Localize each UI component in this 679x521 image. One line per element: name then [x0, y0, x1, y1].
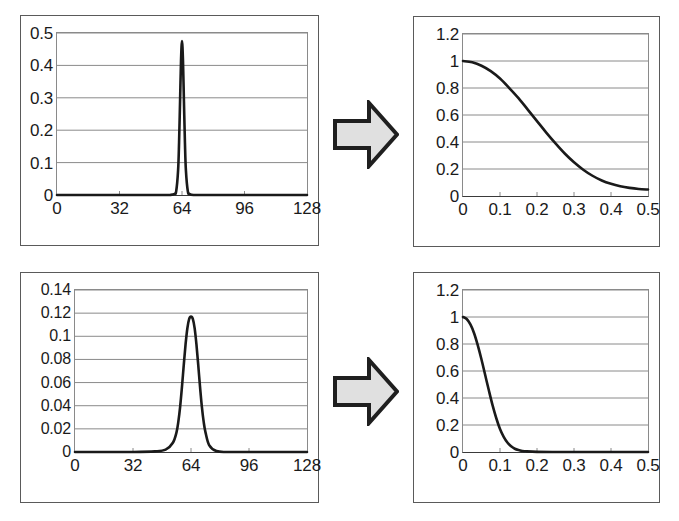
y-axis-tick-label: 0.2 — [30, 122, 53, 139]
arrow-top — [333, 100, 399, 169]
y-axis-tick-label: 1.2 — [436, 26, 459, 43]
plot-area-top-right: 00.20.40.60.811.200.10.20.30.40.5 — [462, 33, 649, 197]
y-axis-tick-label: 0.08 — [41, 351, 71, 367]
y-axis-tick-label: 0.02 — [41, 421, 71, 437]
y-axis-tick-label: 1 — [450, 53, 459, 70]
data-series-line — [57, 41, 307, 195]
right-arrow-icon — [333, 357, 399, 426]
y-axis-tick-label: 0.2 — [436, 161, 459, 178]
chart-panel-top-left: 00.10.20.30.40.50326496128 — [20, 15, 319, 246]
plot-area-bottom-left: 00.020.040.060.080.10.120.140326496128 — [74, 289, 308, 453]
y-axis-tick-label: 0.8 — [436, 336, 459, 353]
x-axis-tick-label: 32 — [110, 200, 129, 217]
plot-curve-top-right — [463, 34, 648, 196]
y-axis-tick-label: 0.04 — [41, 398, 71, 414]
figure-root: 00.10.20.30.40.50326496128 00.20.40.60.8… — [0, 0, 679, 521]
x-axis-tick-label: 64 — [182, 457, 201, 474]
data-series-line — [463, 61, 648, 190]
x-axis-tick-label: 0.4 — [599, 201, 622, 218]
y-axis-tick-label: 0.4 — [436, 390, 459, 407]
chart-panel-top-right: 00.20.40.60.811.200.10.20.30.40.5 — [413, 16, 660, 247]
y-axis-tick-label: 1 — [450, 309, 459, 326]
x-axis-tick-label: 0.3 — [562, 201, 585, 218]
x-axis-tick-label: 96 — [240, 457, 259, 474]
x-axis-tick-label: 64 — [173, 200, 192, 217]
y-axis-tick-label: 0.4 — [30, 57, 53, 74]
x-axis-tick-label: 0.2 — [525, 457, 548, 474]
x-axis-tick-label: 0.3 — [562, 457, 585, 474]
x-axis-tick-label: 0 — [70, 457, 79, 474]
x-axis-tick-label: 0.4 — [599, 457, 622, 474]
plot-curve-top-left — [57, 33, 307, 195]
chart-panel-bottom-right: 00.20.40.60.811.200.10.20.30.40.5 — [413, 272, 660, 503]
y-axis-tick-label: 0.6 — [436, 363, 459, 380]
y-axis-tick-label: 0.2 — [436, 417, 459, 434]
x-axis-tick-label: 128 — [293, 200, 321, 217]
y-axis-tick-label: 0.1 — [30, 154, 53, 171]
x-axis-tick-label: 0.1 — [488, 457, 511, 474]
x-axis-tick-label: 96 — [235, 200, 254, 217]
plot-area-bottom-right: 00.20.40.60.811.200.10.20.30.40.5 — [462, 289, 649, 453]
y-axis-tick-label: 0.4 — [436, 134, 459, 151]
x-axis-tick-label: 0 — [458, 201, 467, 218]
y-axis-tick-label: 0.14 — [41, 282, 71, 298]
y-axis-tick-label: 0.3 — [30, 89, 53, 106]
y-axis-tick-label: 0.1 — [49, 328, 71, 344]
x-axis-tick-label: 0.1 — [488, 201, 511, 218]
data-series-line — [75, 317, 307, 452]
plot-area-top-left: 00.10.20.30.40.50326496128 — [56, 32, 308, 196]
x-axis-tick-label: 0 — [52, 200, 61, 217]
arrow-bottom — [333, 357, 399, 426]
x-axis-tick-label: 0 — [458, 457, 467, 474]
y-axis-tick-label: 0.8 — [436, 80, 459, 97]
x-axis-tick-label: 0.5 — [636, 201, 659, 218]
x-axis-tick-label: 128 — [293, 457, 321, 474]
y-axis-tick-label: 0.5 — [30, 25, 53, 42]
x-axis-tick-label: 0.2 — [525, 201, 548, 218]
y-axis-tick-label: 0.6 — [436, 107, 459, 124]
plot-curve-bottom-left — [75, 290, 307, 452]
x-axis-tick-label: 0.5 — [636, 457, 659, 474]
y-axis-tick-label: 0.06 — [41, 375, 71, 391]
data-series-line — [463, 317, 648, 452]
x-axis-tick-label: 32 — [124, 457, 143, 474]
y-axis-tick-label: 1.2 — [436, 282, 459, 299]
plot-curve-bottom-right — [463, 290, 648, 452]
y-axis-tick-label: 0.12 — [41, 305, 71, 321]
right-arrow-icon — [333, 100, 399, 169]
chart-panel-bottom-left: 00.020.040.060.080.10.120.140326496128 — [20, 272, 319, 503]
